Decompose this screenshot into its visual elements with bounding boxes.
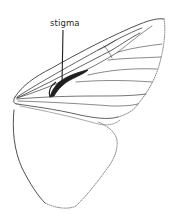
wing-illustration [0,0,173,224]
vein-r-branch-3 [108,57,161,60]
vein-r-branch-2 [118,44,162,52]
stigma-leader-line [62,30,63,84]
forewing-anal-line [20,106,120,125]
forewing-base [14,97,17,104]
vein-subcosta [17,28,142,97]
vein-media-2 [76,81,152,83]
vein-cubitus-2 [18,101,138,106]
hindwing-posterior-margin [45,122,117,208]
vein-media-1 [88,69,157,75]
wing-diagram: stigma [0,0,173,224]
vein-cubitus [17,94,146,99]
vein-radius [17,33,140,98]
hindwing [13,110,117,208]
forewing [14,19,165,125]
stigma-label: stigma [50,19,80,28]
hindwing-anterior-edge [13,110,45,203]
